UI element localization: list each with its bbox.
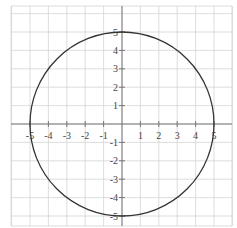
y-tick-label: 4 (113, 45, 118, 56)
y-tick-label: -4 (110, 192, 118, 203)
y-tick-label: -3 (110, 174, 118, 185)
axes (11, 6, 232, 226)
y-tick-label: -1 (110, 137, 118, 148)
x-tick-label: -1 (99, 130, 107, 141)
y-tick-label: 3 (113, 63, 118, 74)
x-tick-label: 1 (138, 130, 143, 141)
x-tick-label: -2 (81, 130, 89, 141)
circle-graph: -5-4-3-2-112345 54321-1-2-3-4-5 (0, 0, 237, 228)
x-tick-label: 3 (175, 130, 180, 141)
x-tick-label: 4 (193, 130, 198, 141)
x-tick-label: -3 (63, 130, 71, 141)
x-tick-label: -4 (44, 130, 52, 141)
y-tick-label: -2 (110, 155, 118, 166)
y-tick-label: 2 (113, 82, 118, 93)
x-tick-labels: -5-4-3-2-112345 (26, 130, 217, 141)
y-tick-label: 1 (113, 100, 118, 111)
x-tick-label: 2 (156, 130, 161, 141)
